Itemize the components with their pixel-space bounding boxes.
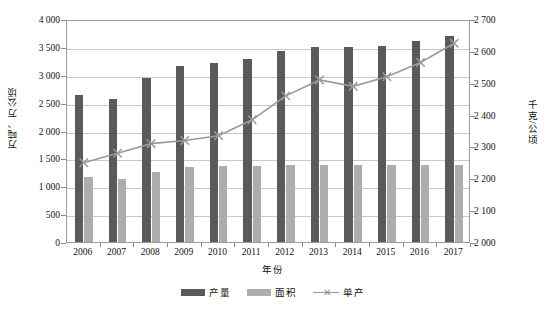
x-axis-title: 年份	[0, 262, 545, 276]
x-axis-tickmark	[436, 243, 437, 247]
y-axis-left-tick-label: 0	[0, 238, 60, 248]
y-axis-left-tickmark	[61, 76, 66, 77]
x-marker-2012	[282, 92, 290, 100]
y-axis-left-tickmark	[61, 104, 66, 105]
line-path-单产	[84, 43, 454, 162]
y-axis-right-title: 千克/公顷	[521, 100, 537, 145]
x-axis-tick-label: 2008	[133, 247, 167, 258]
y-axis-right-tick-label: 2 400	[474, 111, 534, 121]
legend-item-产量[interactable]: 产量	[181, 285, 230, 299]
y-axis-left-tick-label: 3 500	[0, 43, 60, 53]
bar-swatch-light-icon	[247, 289, 271, 296]
x-axis-tickmark	[201, 243, 202, 247]
x-axis-tickmark	[335, 243, 336, 247]
x-axis-tick-label: 2014	[335, 247, 369, 258]
y-axis-left-tickmark	[61, 243, 66, 244]
y-axis-left-tick-label: 500	[0, 210, 60, 220]
y-axis-left-title: 万吨、万公顷	[8, 86, 24, 149]
y-axis-left-tick-label: 3 000	[0, 71, 60, 81]
x-axis-tickmark	[302, 243, 303, 247]
x-marker-2011	[248, 116, 256, 124]
legend-label: 单产	[343, 285, 364, 299]
y-axis-left-tickmark	[61, 187, 66, 188]
x-marker-2017	[450, 39, 458, 47]
x-axis-tick-label: 2006	[66, 247, 100, 258]
y-axis-right-tickmark	[470, 179, 475, 180]
y-axis-right-tick-label: 2 600	[474, 47, 534, 57]
x-axis-tickmark	[133, 243, 134, 247]
line-series	[67, 21, 471, 244]
x-axis-tickmark	[167, 243, 168, 247]
y-axis-left-tickmark	[61, 215, 66, 216]
x-axis-tick-label: 2017	[436, 247, 470, 258]
y-axis-right-tickmark	[470, 147, 475, 148]
x-marker-2007	[113, 149, 121, 157]
line-swatch-icon: ✕	[313, 288, 339, 297]
y-axis-left-tick-label: 2 000	[0, 127, 60, 137]
y-axis-left-tickmark	[61, 159, 66, 160]
x-marker-2015	[383, 73, 391, 81]
y-axis-left-tick-label: 4 000	[0, 15, 60, 25]
y-axis-left-tickmark	[61, 132, 66, 133]
x-marker-2006	[80, 159, 88, 167]
x-axis-tickmark	[268, 243, 269, 247]
y-axis-right-tickmark	[470, 211, 475, 212]
x-axis-tick-label: 2015	[369, 247, 403, 258]
plot-area	[66, 20, 470, 243]
x-axis-tick-label: 2016	[403, 247, 437, 258]
x-axis-tickmark	[234, 243, 235, 247]
x-marker-2016	[416, 58, 424, 66]
y-axis-right-tick-label: 2 200	[474, 174, 534, 184]
y-axis-right-tick-label: 2 700	[474, 15, 534, 25]
y-axis-right-tickmark	[470, 52, 475, 53]
x-axis-tick-label: 2009	[167, 247, 201, 258]
y-axis-left-tick-label: 2 500	[0, 99, 60, 109]
legend-item-单产[interactable]: ✕单产	[313, 285, 364, 299]
legend-label: 面积	[275, 285, 296, 299]
y-axis-right-tick-label: 2 300	[474, 142, 534, 152]
y-axis-left-tickmark	[61, 48, 66, 49]
x-axis-tick-label: 2007	[100, 247, 134, 258]
y-axis-left-tickmark	[61, 20, 66, 21]
y-axis-right-tickmark	[470, 84, 475, 85]
chart-legend: 产量面积✕单产	[0, 285, 545, 299]
y-axis-right-tick-label: 2 100	[474, 206, 534, 216]
x-axis-tickmark	[369, 243, 370, 247]
x-axis-tick-label: 2013	[302, 247, 336, 258]
legend-item-面积[interactable]: 面积	[247, 285, 296, 299]
y-axis-right-tickmark	[470, 20, 475, 21]
y-axis-right-tick-label: 2 500	[474, 79, 534, 89]
bar-swatch-dark-icon	[181, 289, 205, 296]
x-axis-tickmark	[100, 243, 101, 247]
y-axis-right-tickmark	[470, 116, 475, 117]
y-axis-right-tick-label: 2 000	[474, 238, 534, 248]
x-axis-tick-label: 2010	[201, 247, 235, 258]
x-axis-tickmark	[403, 243, 404, 247]
legend-label: 产量	[209, 285, 230, 299]
y-axis-left-tick-label: 1 000	[0, 182, 60, 192]
chart-container: 万吨、万公顷 千克/公顷 年份 05001 0001 5002 0002 500…	[0, 0, 545, 327]
x-axis-tickmark	[470, 243, 471, 247]
x-axis-tick-label: 2012	[268, 247, 302, 258]
y-axis-left-tick-label: 1 500	[0, 154, 60, 164]
x-axis-tick-label: 2011	[234, 247, 268, 258]
